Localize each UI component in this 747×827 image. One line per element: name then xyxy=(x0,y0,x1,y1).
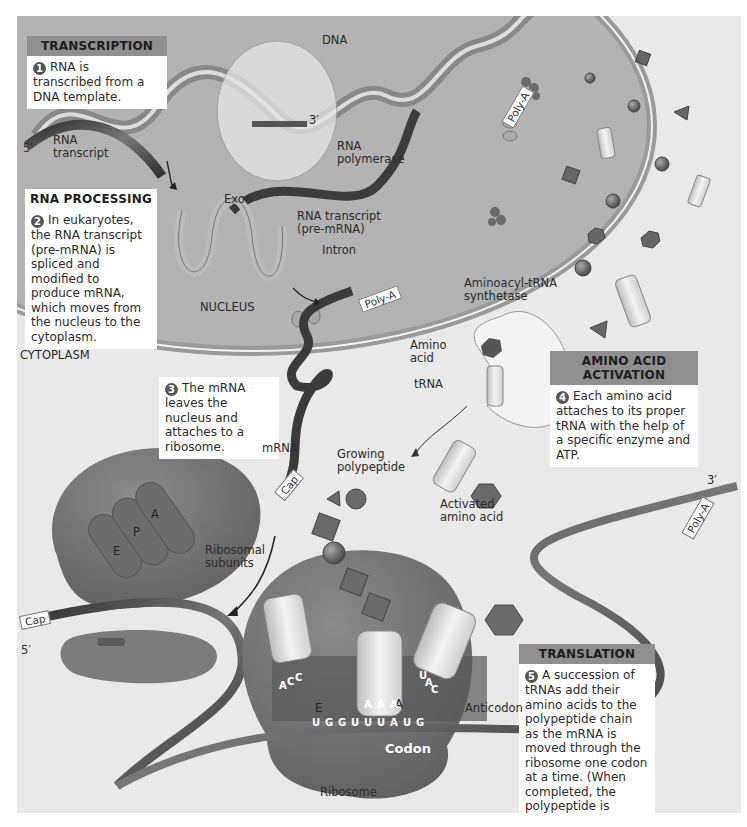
step-number-icon: 4 xyxy=(556,391,569,404)
step-title: TRANSCRIPTION xyxy=(27,36,167,56)
amino-acid-label: Amino acid xyxy=(410,339,447,365)
step-text: RNA is transcribed from a DNA template. xyxy=(33,60,144,104)
p-site-label: P xyxy=(133,526,140,539)
gene-expression-diagram: NUCLEUS CYTOPLASM TRANSCRIPTION 1RNA is … xyxy=(17,16,741,813)
codon-base: U xyxy=(364,717,372,728)
a-site-label: A xyxy=(151,508,159,521)
step-5-translation-box: TRANSLATION 5A succession of tRNAs add t… xyxy=(519,644,655,813)
e-site-label: E xyxy=(315,702,322,715)
intron-label: Intron xyxy=(322,244,356,257)
mrna-label: mRNA xyxy=(262,442,298,455)
ribosome-label: Ribosome xyxy=(320,786,377,799)
trna-label: tRNA xyxy=(414,378,443,391)
anticodon-base: A xyxy=(390,699,398,710)
three-prime-label: 3′ xyxy=(309,114,319,127)
codon-base: G xyxy=(325,717,333,728)
step-title: TRANSLATION xyxy=(519,644,655,664)
anticodon-base: A xyxy=(279,680,287,691)
step-text: A succession of tRNAs add their amino ac… xyxy=(525,668,647,813)
rna-polymerase-label: RNA polymerase xyxy=(337,140,404,166)
codon-base: U xyxy=(312,717,320,728)
step-number-icon: 3 xyxy=(165,383,178,396)
step-text: In eukaryotes, the RNA transcript (pre-m… xyxy=(31,213,142,344)
exon-label: Exon xyxy=(224,193,252,206)
anticodon-base: C xyxy=(287,676,294,687)
five-prime-label: 5′ xyxy=(23,142,33,155)
growing-polypeptide-label: Growing polypeptide xyxy=(337,448,405,474)
ribosomal-subunits-label: Ribosomal subunits xyxy=(205,544,265,570)
rna-transcript-pre-mrna-label: RNA transcript (pre-mRNA) xyxy=(297,210,381,236)
anticodon-base: A xyxy=(364,699,372,710)
step-4-amino-acid-activation-box: AMINO ACID ACTIVATION 4Each amino acid a… xyxy=(550,351,698,467)
codon-base: A xyxy=(390,717,398,728)
three-prime-right-label: 3′ xyxy=(707,474,717,487)
step-number-icon: 2 xyxy=(31,215,44,228)
step-text: Each amino acid attaches to its proper t… xyxy=(556,389,690,462)
step-number-icon: 1 xyxy=(33,62,46,75)
codon-base: G xyxy=(416,717,424,728)
anticodon-base: A xyxy=(377,699,385,710)
small-ribosomal-subunit xyxy=(61,630,217,683)
step-title: RNA PROCESSING xyxy=(25,189,157,209)
codon-base: U xyxy=(377,717,385,728)
anticodon-base: C xyxy=(295,672,302,683)
anticodon-label: Anticodon xyxy=(465,702,523,715)
rna-transcript-label: RNA transcript xyxy=(53,134,109,160)
rna-polymerase-bubble xyxy=(217,41,337,181)
aminoacyl-trna-synthetase-label: Aminoacyl-tRNA synthetase xyxy=(464,277,557,303)
step-title: AMINO ACID ACTIVATION xyxy=(550,351,698,385)
codon-base: U xyxy=(403,717,411,728)
cytoplasm-label: CYTOPLASM xyxy=(20,349,90,362)
dna-label: DNA xyxy=(322,34,347,47)
step-1-transcription-box: TRANSCRIPTION 1RNA is transcribed from a… xyxy=(27,36,167,109)
five-prime-bottom-label: 5′ xyxy=(21,644,31,657)
codon-base: G xyxy=(338,717,346,728)
nucleus-label: NUCLEUS xyxy=(200,301,254,314)
activated-amino-acid-label: Activated amino acid xyxy=(440,498,503,524)
anticodon-base: C xyxy=(431,684,438,695)
codon-label: Codon xyxy=(385,742,431,755)
step-number-icon: 5 xyxy=(525,670,538,683)
step-3-mrna-export-box: 3The mRNA leaves the nucleus and attache… xyxy=(159,377,279,459)
e-site-label: E xyxy=(113,545,120,558)
codon-base: U xyxy=(351,717,359,728)
step-2-rna-processing-box: RNA PROCESSING 2In eukaryotes, the RNA t… xyxy=(25,189,157,349)
